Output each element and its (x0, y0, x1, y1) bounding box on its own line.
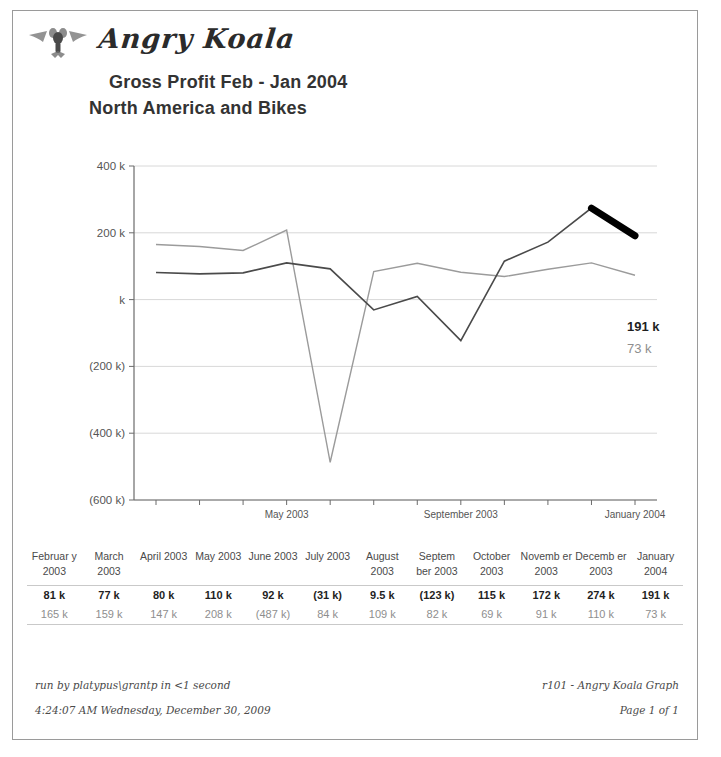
table-col-header: May 2003 (191, 547, 246, 585)
x-tick-label: May 2003 (265, 509, 309, 520)
page-title: Gross Profit Feb - Jan 2004 (109, 69, 697, 95)
table-cell: 191 k (628, 586, 683, 605)
x-tick-label: September 2003 (424, 509, 498, 520)
table-cell: 110 k (574, 605, 629, 624)
x-tick-label: January 2004 (605, 509, 666, 520)
table-row: 81 k77 k80 k110 k92 k(31 k)9.5 k(123 k)1… (27, 586, 683, 605)
table-cell: 165 k (27, 605, 82, 624)
table-cell: 69 k (464, 605, 519, 624)
table-cell: 147 k (136, 605, 191, 624)
brand-name: Angry Koala (97, 23, 296, 54)
table-cell: 82 k (410, 605, 465, 624)
end-label-light: 73 k (627, 338, 691, 360)
table-cell: (487 k) (246, 605, 301, 624)
table-cell: 159 k (82, 605, 137, 624)
y-tick-label: (200 k) (89, 360, 125, 372)
table-cell: 109 k (355, 605, 410, 624)
chart-series (156, 208, 635, 462)
y-tick-label: k (119, 294, 125, 306)
report-footer: run by platypus\grantp in <1 second r101… (27, 679, 683, 729)
series-line-current (156, 208, 635, 341)
title-block: Gross Profit Feb - Jan 2004 North Americ… (13, 69, 697, 121)
y-tick-label: 200 k (97, 227, 125, 239)
table-col-header: October 2003 (464, 547, 519, 585)
table-col-header: April 2003 (136, 547, 191, 585)
table-col-header: Decemb er 2003 (574, 547, 629, 585)
table-cell: 77 k (82, 586, 137, 605)
chart-svg: 400 k200 kk(200 k)(400 k)(600 k) May 200… (13, 141, 698, 521)
table-col-header: Februar y 2003 (27, 547, 82, 585)
chart-x-axis: May 2003September 2003January 2004March … (156, 500, 666, 521)
table-col-header: Septem ber 2003 (410, 547, 465, 585)
table-cell: (123 k) (410, 586, 465, 605)
y-tick-label: 400 k (97, 160, 125, 172)
table-cell: 84 k (300, 605, 355, 624)
table-cell: 80 k (136, 586, 191, 605)
table-rule (27, 624, 683, 625)
table-cell: 92 k (246, 586, 301, 605)
line-chart: 400 k200 kk(200 k)(400 k)(600 k) May 200… (13, 141, 698, 521)
footer-timestamp: 4:24:07 AM Wednesday, December 30, 2009 (35, 704, 271, 716)
table-header-row: Februar y 2003March 2003April 2003May 20… (27, 547, 683, 585)
series-line-comparison (156, 230, 635, 462)
table-cell: 9.5 k (355, 586, 410, 605)
y-tick-label: (400 k) (89, 427, 125, 439)
y-tick-label: (600 k) (89, 494, 125, 506)
table-col-header: January 2004 (628, 547, 683, 585)
footer-page: Page 1 of 1 (620, 704, 679, 716)
footer-report-id: r101 - Angry Koala Graph (542, 679, 679, 691)
end-label-dark: 191 k (627, 316, 691, 338)
table-cell: 81 k (27, 586, 82, 605)
table-row: 165 k159 k147 k208 k(487 k)84 k109 k82 k… (27, 605, 683, 624)
report-page: Angry Koala Gross Profit Feb - Jan 2004 … (12, 10, 698, 740)
series-end-labels: 191 k 73 k (627, 316, 691, 360)
table-col-header: June 2003 (246, 547, 301, 585)
koala-emblem-icon (27, 25, 89, 63)
footer-run-by: run by platypus\grantp in <1 second (35, 679, 230, 691)
table-cell: 110 k (191, 586, 246, 605)
table-col-header: March 2003 (82, 547, 137, 585)
chart-gridlines (134, 166, 657, 500)
table-cell: 274 k (574, 586, 629, 605)
table-col-header: August 2003 (355, 547, 410, 585)
table-cell: 91 k (519, 605, 574, 624)
table-cell: 73 k (628, 605, 683, 624)
page-subtitle: North America and Bikes (89, 95, 697, 121)
table-col-header: July 2003 (300, 547, 355, 585)
series-emphasis-segment (591, 208, 635, 236)
table-col-header: Novemb er 2003 (519, 547, 574, 585)
table-cell: 172 k (519, 586, 574, 605)
table-cell: 208 k (191, 605, 246, 624)
data-table: Februar y 2003March 2003April 2003May 20… (27, 547, 683, 625)
chart-y-axis: 400 k200 kk(200 k)(400 k)(600 k) (89, 160, 657, 506)
brand-header: Angry Koala (27, 19, 427, 71)
table-cell: (31 k) (300, 586, 355, 605)
table-cell: 115 k (464, 586, 519, 605)
